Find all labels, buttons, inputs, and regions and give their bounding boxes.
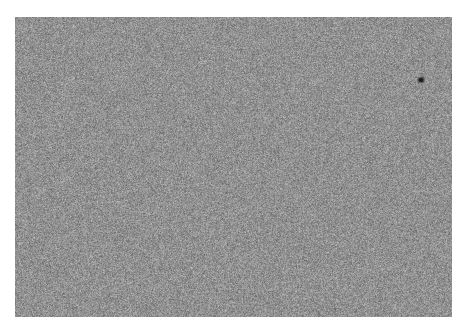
noise-texture-panel [15, 17, 452, 317]
image-page [0, 0, 461, 331]
noise-texture-canvas [15, 17, 452, 317]
